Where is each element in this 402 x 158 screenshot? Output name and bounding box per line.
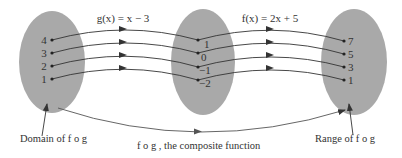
domain-value: 3 — [41, 47, 47, 59]
range-ellipse — [321, 9, 387, 115]
range-value: 3 — [348, 61, 354, 73]
range-value: 5 — [348, 48, 354, 60]
range-caption: Range of f o g — [315, 133, 376, 144]
composite-arrowhead — [194, 129, 202, 135]
intermediate-value: 1 — [204, 38, 210, 50]
domain-ellipse — [19, 11, 85, 113]
range-value: 1 — [348, 74, 354, 86]
composite-caption: f o g , the composite function — [137, 140, 261, 151]
g-arrowheads — [119, 26, 127, 71]
intermediate-value: 0 — [201, 51, 207, 63]
intermediate-value: −1 — [199, 64, 211, 76]
f-function-label: f(x) = 2x + 5 — [242, 12, 299, 25]
composite-function-diagram: 4 3 2 1 1 0 −1 −2 7 5 3 1 g(x) = x − 3 f… — [0, 0, 402, 158]
intermediate-value: −2 — [199, 77, 211, 89]
f-arrowheads — [266, 26, 274, 71]
range-value: 7 — [348, 35, 354, 47]
domain-value: 1 — [41, 73, 47, 85]
domain-value: 4 — [41, 34, 47, 46]
domain-value: 2 — [41, 60, 47, 72]
domain-caption: Domain of f o g — [20, 133, 88, 144]
g-function-label: g(x) = x − 3 — [97, 12, 150, 25]
